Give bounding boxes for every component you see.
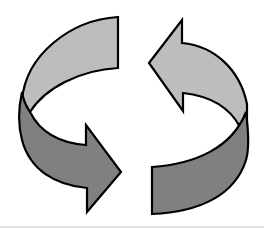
- left-arrow: [19, 17, 121, 212]
- cycle-arrows-diagram: [0, 0, 264, 229]
- right-arrow-light-ribbon: [149, 20, 247, 127]
- left-arrow-light-ribbon: [22, 17, 118, 112]
- left-arrow-dark-ribbon: [19, 92, 121, 212]
- right-arrow-dark-ribbon: [152, 112, 248, 214]
- bottom-divider: [0, 226, 264, 228]
- right-arrow: [149, 20, 248, 214]
